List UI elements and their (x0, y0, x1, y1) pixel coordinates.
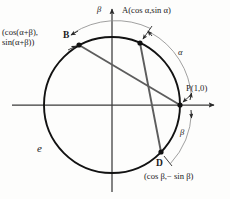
angle-label-beta-lower: β (180, 128, 184, 137)
unit-circle-figure: B (cos(α+β), sin(α+β)) A(cos α,sin α) P(… (0, 0, 230, 199)
outer-arcs-group (73, 21, 192, 164)
point-dot-B (76, 42, 81, 47)
point-label-B: B (63, 30, 69, 40)
point-label-P: P(1,0) (186, 84, 207, 93)
point-coords-B: (cos(α+β), sin(α+β)) (2, 28, 38, 47)
chord-BP (79, 45, 180, 105)
point-label-D: D (156, 158, 163, 168)
arc-beta-lower-arrow (191, 110, 192, 118)
arc-beta-upper-arrow (71, 31, 78, 35)
point-dot-P (177, 102, 182, 107)
point-label-A: A(cos α,sin α) (122, 6, 171, 15)
arc-beta-lower-path (171, 113, 192, 164)
leader-D (164, 156, 172, 166)
point-dot-A (137, 40, 142, 45)
arc-alpha-arrow-b (148, 31, 152, 36)
point-coords-B-line2: sin(α+β)) (2, 38, 38, 48)
angle-label-alpha: α (178, 48, 183, 57)
chords-group (79, 43, 180, 152)
point-dot-D (158, 149, 163, 154)
angle-label-beta-upper: β (97, 5, 101, 14)
leader-lines-group (68, 26, 192, 166)
point-coords-D: (cos β,− sin β) (144, 172, 193, 181)
chord-AD (140, 43, 161, 152)
circle-name-label: e (37, 143, 42, 155)
